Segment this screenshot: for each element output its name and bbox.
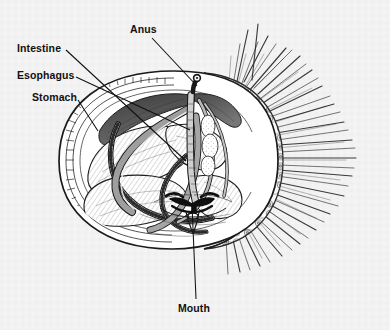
label-stomach: Stomach: [32, 92, 77, 103]
label-anus: Anus: [130, 24, 157, 35]
label-intestine: Intestine: [17, 43, 61, 54]
anatomy-figure: Anus Intestine Esophagus Stomach Mouth: [0, 0, 390, 330]
label-esophagus: Esophagus: [17, 70, 75, 81]
label-mouth: Mouth: [178, 303, 210, 314]
